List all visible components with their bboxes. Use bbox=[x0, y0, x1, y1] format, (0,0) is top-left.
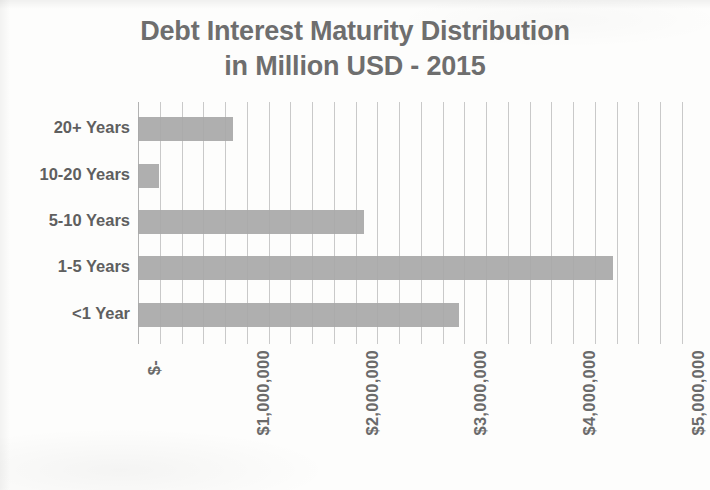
x-axis-tick-label: $1,000,000 bbox=[254, 350, 273, 436]
y-axis-label: <1 Year bbox=[0, 304, 130, 323]
x-axis-tick-label: $4,000,000 bbox=[580, 350, 599, 436]
chart-title: Debt Interest Maturity Distribution in M… bbox=[0, 14, 710, 84]
bars-layer bbox=[138, 106, 682, 338]
chart-image: Debt Interest Maturity Distribution in M… bbox=[0, 0, 710, 490]
y-axis-label: 5-10 Years bbox=[0, 211, 130, 230]
bar bbox=[138, 164, 159, 188]
x-axis-tick-label: $5,000,000 bbox=[689, 350, 708, 436]
x-axis-value-labels: $-$1,000,000$2,000,000$3,000,000$4,000,0… bbox=[0, 338, 710, 490]
y-axis-category-labels: 20+ Years10-20 Years5-10 Years1-5 Years<… bbox=[0, 106, 130, 338]
bar bbox=[138, 256, 613, 280]
y-axis-label: 1-5 Years bbox=[0, 257, 130, 276]
x-axis-tick-label: $3,000,000 bbox=[471, 350, 490, 436]
chart-title-line-2: in Million USD - 2015 bbox=[0, 49, 710, 84]
y-axis-label: 20+ Years bbox=[0, 118, 130, 137]
bar bbox=[138, 117, 233, 141]
bar bbox=[138, 210, 364, 234]
gridline bbox=[682, 102, 683, 344]
bar bbox=[138, 303, 459, 327]
chart-title-line-1: Debt Interest Maturity Distribution bbox=[0, 14, 710, 49]
x-axis-tick-label: $- bbox=[145, 360, 164, 375]
x-axis-tick-label: $2,000,000 bbox=[363, 350, 382, 436]
y-axis-label: 10-20 Years bbox=[0, 165, 130, 184]
